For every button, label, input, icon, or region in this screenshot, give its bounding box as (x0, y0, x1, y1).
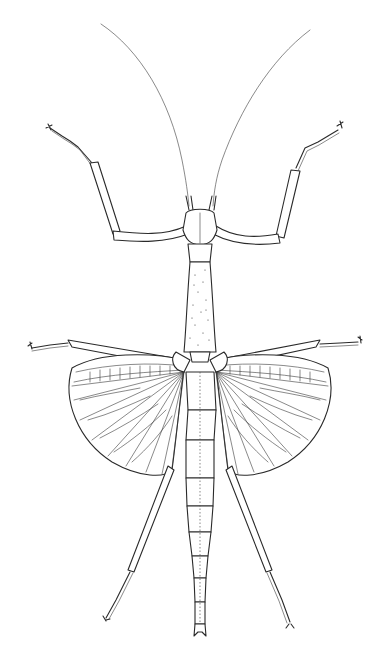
illustration-canvas (0, 0, 385, 659)
wing-right (215, 355, 331, 476)
abdomen (186, 372, 216, 636)
antennae (101, 24, 310, 210)
foreleg-left (46, 124, 188, 241)
prothorax (188, 244, 212, 262)
wing-bases (173, 352, 228, 372)
hindleg-left (103, 466, 174, 621)
stick-insect-drawing (0, 0, 385, 659)
mesothorax (184, 262, 216, 352)
head (183, 209, 217, 245)
foreleg-right (213, 121, 343, 244)
wing-left (69, 355, 185, 476)
hindleg-right (226, 466, 294, 628)
